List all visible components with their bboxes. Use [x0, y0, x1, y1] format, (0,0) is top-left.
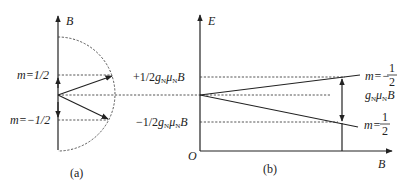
upper-energy-label: +1/2gNμNB	[133, 70, 185, 85]
panel-b-caption: (b)	[263, 162, 277, 176]
spin-up-vector-icon	[58, 76, 112, 95]
upper-level-line	[200, 75, 360, 95]
e-axis-label: E	[207, 14, 216, 28]
upper-frac-den: 2	[389, 75, 395, 89]
upper-line-label: m=−	[365, 69, 390, 83]
upper-frac-num: 1	[389, 61, 395, 75]
gap-label: gNμNB	[365, 88, 395, 103]
lower-energy-label: −1/2gNμNB	[136, 115, 188, 130]
lower-frac-den: 2	[382, 124, 388, 138]
lower-line-label: m=	[364, 118, 381, 132]
lower-frac-num: 1	[382, 110, 388, 124]
level-upper-label: m=1/2	[17, 68, 49, 82]
spin-down-vector-icon	[58, 95, 108, 119]
panel-a-axis-label: B	[66, 14, 74, 28]
precession-semicircle	[58, 37, 115, 151]
panel-a-caption: (a)	[70, 166, 83, 180]
panel-a: B m=1/2 m=−1/2 (a)	[10, 14, 330, 180]
b-axis-label: B	[378, 157, 386, 171]
origin-label: O	[188, 149, 197, 163]
level-lower-label: m=−1/2	[10, 113, 50, 127]
nuclear-zeeman-diagram: B m=1/2 m=−1/2 (a) E B O	[0, 0, 411, 188]
